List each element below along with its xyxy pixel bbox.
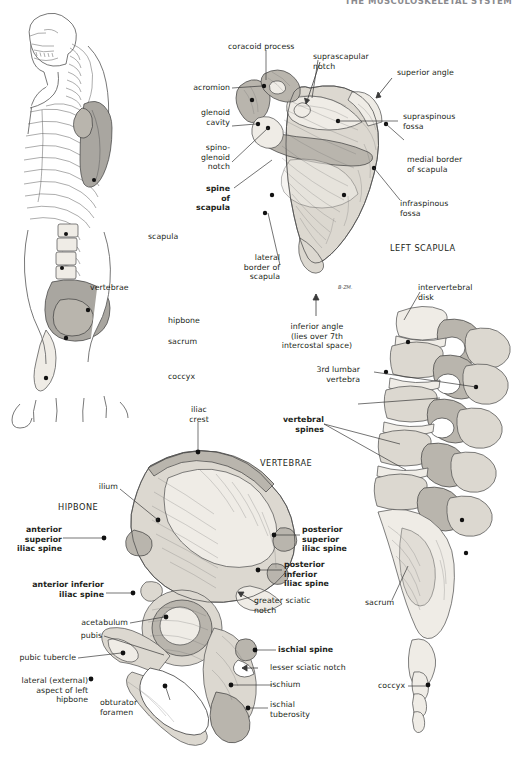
label-vertebrae-coccyx: coccyx: [378, 681, 405, 691]
caption-hipbone: HIPBONE: [58, 503, 98, 513]
caption-vertebrae: VERTEBRAE: [260, 459, 312, 469]
label-superior-angle: superior angle: [397, 68, 454, 78]
label-lateral-border-of-scapula: lateral border of scapula: [208, 253, 280, 282]
label-anterior-superior-iliac-spine: anterior superior iliac spine: [0, 525, 62, 554]
label-spine-of-scapula: spine of scapula: [158, 184, 230, 213]
label-vertebrae-sacrum: sacrum: [365, 598, 394, 608]
caption-left-scapula: LEFT SCAPULA: [390, 244, 456, 254]
anatomy-plate-page: THE MUSCULOSKELETAL SYSTEM: [0, 0, 520, 778]
artist-signature: B-ZM.: [338, 284, 352, 290]
label-posterior-inferior-iliac-spine: posterior inferior iliac spine: [284, 560, 329, 589]
label-acetabulum: acetabulum: [58, 618, 128, 628]
label-greater-sciatic-notch: greater sciatic notch: [254, 596, 311, 615]
label-intervertebral-disk: intervertebral disk: [418, 283, 472, 302]
label-pubis: pubis: [58, 631, 102, 641]
label-posterior-superior-iliac-spine: posterior superior iliac spine: [302, 525, 347, 554]
label-lesser-sciatic-notch: lesser sciatic notch: [270, 663, 346, 673]
label-ischial-tuberosity: ischial tuberosity: [270, 700, 310, 719]
label-iliac-crest: iliac crest: [178, 405, 220, 424]
label-acromion: acromion: [158, 83, 230, 93]
label-ischium: ischium: [270, 680, 301, 690]
label-inferior-angle: inferior angle (lies over 7th intercosta…: [265, 322, 369, 351]
label-medial-border-of-scapula: medial border of scapula: [407, 155, 462, 174]
label-torso-scapula: scapula: [148, 232, 178, 242]
label-torso-sacrum: sacrum: [168, 337, 197, 347]
label-obturator-foramen: obturator foramen: [100, 698, 137, 717]
label-glenoid-cavity: glenoid cavity: [158, 108, 230, 127]
label-3rd-lumbar-vertebra: 3rd lumbar vertebra: [288, 365, 360, 384]
label-vertebral-spines: vertebral spines: [258, 415, 324, 434]
label-ischial-spine: ischial spine: [278, 645, 333, 655]
label-torso-hipbone: hipbone: [168, 316, 200, 326]
label-infraspinous-fossa: infraspinous fossa: [400, 199, 448, 218]
label-anterior-inferior-iliac-spine: anterior inferior iliac spine: [10, 580, 104, 599]
label-torso-coccyx: coccyx: [168, 372, 195, 382]
label-supraspinous-fossa: supraspinous fossa: [403, 112, 455, 131]
label-pubic-tubercle: pubic tubercle: [0, 653, 76, 663]
label-coracoid-process: coracoid process: [228, 42, 294, 52]
label-spinoglenoid-notch: spino- glenoid notch: [158, 143, 230, 172]
label-ilium: ilium: [72, 482, 118, 492]
running-header-title: THE MUSCULOSKELETAL SYSTEM: [345, 0, 512, 6]
label-torso-vertebrae: vertebrae: [90, 283, 129, 293]
caption-hipbone-aspect: lateral (external) aspect of left hipbon…: [8, 676, 88, 705]
label-suprascapular-notch: suprascapular notch: [313, 52, 369, 71]
